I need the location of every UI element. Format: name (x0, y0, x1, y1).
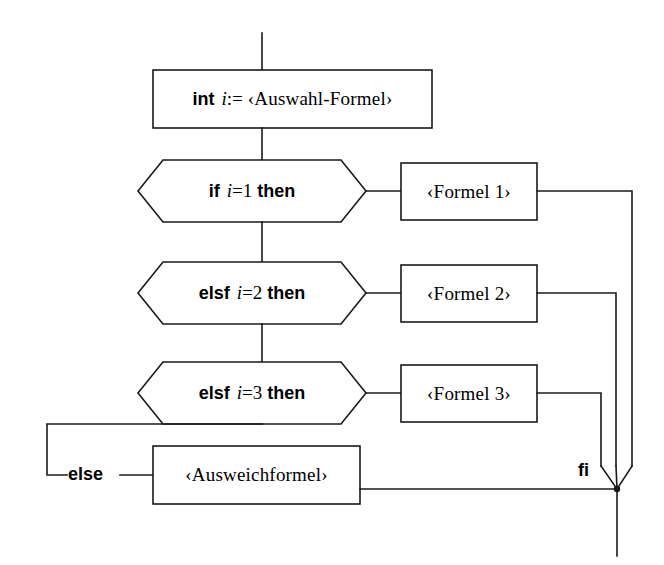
connector-formula1-to-merge (537, 191, 632, 466)
connector-formula3-to-merge (537, 393, 601, 466)
flowchart-canvas: int i := ‹Auswahl-Formel› if i = 1 then … (0, 0, 664, 565)
fallback-box-shape (153, 446, 360, 504)
merge-taper-left (601, 466, 617, 489)
fi-keyword-label: fi (578, 460, 589, 481)
formula2-box-shape (401, 265, 537, 322)
merge-taper-right (617, 466, 632, 489)
cond2-hexagon-shape (138, 262, 366, 324)
else-keyword-label: else (68, 464, 103, 485)
cond3-hexagon-shape (138, 362, 366, 424)
cond1-hexagon-shape (138, 160, 366, 222)
formula3-box-shape (401, 365, 537, 422)
connector-formula2-to-merge (537, 293, 616, 466)
formula1-box-shape (401, 163, 537, 220)
merge-taper-center (616, 466, 617, 489)
declaration-box-shape (153, 70, 432, 128)
